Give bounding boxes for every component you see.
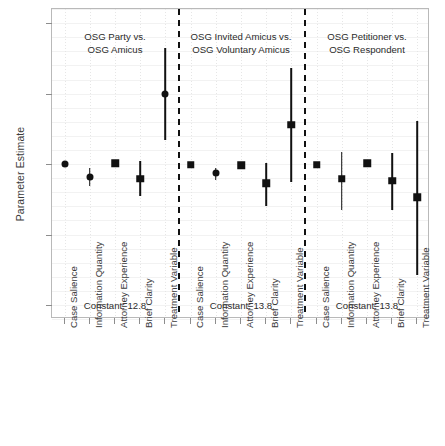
x-axis-tick	[316, 318, 317, 324]
panel-title: OSG Petitioner vs.OSG Respondent	[327, 31, 406, 56]
y-axis-tick	[46, 235, 52, 236]
x-axis-tick-label: Information Quantity	[219, 242, 230, 328]
x-axis-tick	[366, 318, 367, 324]
x-axis-tick-label: Brief Clarity	[143, 278, 154, 328]
x-axis-tick	[64, 318, 65, 324]
estimate-marker	[313, 161, 321, 169]
x-axis-tick-label: Case Salience	[68, 266, 79, 328]
panel-title-line2: OSG Voluntary Amicus	[191, 44, 292, 57]
x-axis-tick	[391, 318, 392, 324]
estimate-marker	[111, 160, 119, 168]
x-axis-tick-label: Case Salience	[194, 266, 205, 328]
x-axis-tick	[190, 318, 191, 324]
panel-title-line1: OSG Invited Amicus vs.	[191, 31, 292, 44]
estimate-marker	[363, 160, 371, 168]
x-axis-tick-label: Information Quantity	[93, 242, 104, 328]
y-axis-title: Parameter Estimate	[14, 94, 26, 254]
x-axis-tick	[215, 318, 216, 324]
estimate-marker	[187, 161, 195, 169]
panel-title-line1: OSG Petitioner vs.	[327, 31, 406, 44]
horizontal-gridline	[52, 108, 428, 109]
estimate-marker	[262, 179, 270, 187]
panel-title: OSG Party vs.OSG Amicus	[84, 31, 145, 56]
x-axis-tick-label: Attorney Experience	[244, 242, 255, 328]
x-axis-tick-label: Attorney Experience	[118, 242, 129, 328]
x-axis-tick-label: Attorney Experience	[370, 242, 381, 328]
horizontal-gridline	[52, 206, 428, 207]
horizontal-gridline	[52, 94, 428, 95]
horizontal-gridline	[52, 150, 428, 151]
x-axis-tick-label: Brief Clarity	[395, 278, 406, 328]
x-axis-tick	[416, 318, 417, 324]
estimate-marker	[288, 121, 296, 129]
panel-title-line2: OSG Amicus	[84, 44, 145, 57]
estimate-marker	[136, 175, 144, 183]
horizontal-gridline	[52, 23, 428, 24]
x-axis-tick-label: Case Salience	[320, 266, 331, 328]
estimate-marker	[338, 175, 346, 183]
estimate-marker	[237, 162, 245, 170]
x-axis-tick-label: Treatment Variable	[168, 247, 179, 328]
y-axis-tick	[46, 23, 52, 24]
horizontal-gridline	[52, 9, 428, 10]
y-axis-tick	[46, 94, 52, 95]
horizontal-gridline	[52, 136, 428, 137]
x-axis-tick-label: Treatment Variable	[420, 247, 431, 328]
horizontal-gridline	[52, 192, 428, 193]
estimate-marker	[414, 193, 422, 201]
y-axis-tick	[46, 164, 52, 165]
horizontal-gridline	[52, 220, 428, 221]
horizontal-gridline	[52, 122, 428, 123]
panel-title: OSG Invited Amicus vs.OSG Voluntary Amic…	[191, 31, 292, 56]
x-axis-tick	[139, 318, 140, 324]
x-axis-tick	[240, 318, 241, 324]
x-axis-tick	[89, 318, 90, 324]
estimate-marker	[212, 170, 219, 177]
x-axis-tick	[265, 318, 266, 324]
horizontal-gridline	[52, 235, 428, 236]
x-axis-tick-label: Information Quantity	[345, 242, 356, 328]
panel-title-line2: OSG Respondent	[327, 44, 406, 57]
panel-title-line1: OSG Party vs.	[84, 31, 145, 44]
y-axis-tick	[46, 305, 52, 306]
x-axis-tick	[341, 318, 342, 324]
x-axis-tick	[164, 318, 165, 324]
horizontal-gridline	[52, 65, 428, 66]
estimate-marker	[86, 173, 93, 180]
x-axis-tick-label: Brief Clarity	[269, 278, 280, 328]
x-axis-tick	[114, 318, 115, 324]
estimate-marker	[162, 91, 169, 98]
coefficient-plot-figure: Parameter Estimate OSG Party vs.OSG Amic…	[0, 0, 445, 446]
horizontal-gridline	[52, 178, 428, 179]
estimate-marker	[388, 177, 396, 185]
horizontal-gridline	[52, 80, 428, 81]
x-axis-tick-label: Treatment Variable	[294, 247, 305, 328]
estimate-marker	[61, 161, 68, 168]
x-axis-tick	[290, 318, 291, 324]
